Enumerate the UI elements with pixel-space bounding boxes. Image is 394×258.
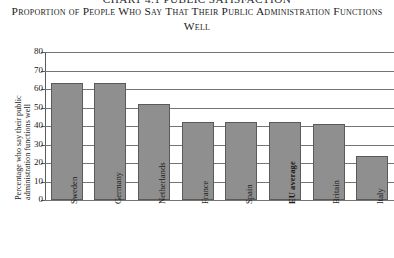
x-label-eu-average: EU average [288, 161, 297, 204]
chart-title: Proportion of People Who Say That Their … [6, 4, 388, 33]
x-label-germany: Germany [114, 172, 123, 204]
y-axis-title: Percentage who say their public administ… [14, 50, 32, 200]
x-label-spain: Spain [245, 184, 254, 204]
bar-series [45, 52, 394, 200]
x-label-france: France [201, 181, 210, 204]
x-label-britain: Britain [332, 180, 341, 204]
x-label-sweden: Sweden [70, 177, 79, 204]
chart-page: CHART 4.1 PUBLIC SATISFACTION Proportion… [0, 0, 394, 258]
x-label-italy: Italy [376, 188, 385, 204]
x-label-netherlands: Netherlands [158, 162, 167, 204]
gridline-0 [45, 200, 394, 201]
plot-area: 01020304050607080 SwedenGermanyNetherlan… [45, 52, 394, 200]
